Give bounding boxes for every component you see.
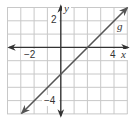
coordinate-plane: 2 y −2 4 x g −4 xyxy=(0,0,134,121)
y-tick-label-neg4: −4 xyxy=(44,95,56,106)
y-axis-label: y xyxy=(63,2,69,14)
grid xyxy=(7,7,128,114)
x-tick-label-4: 4 xyxy=(110,49,116,60)
x-axis-label: x xyxy=(120,48,126,60)
y-tick-label-2: 2 xyxy=(51,14,57,25)
line-g-label: g xyxy=(117,20,123,32)
x-tick-label-neg2: −2 xyxy=(24,49,36,60)
